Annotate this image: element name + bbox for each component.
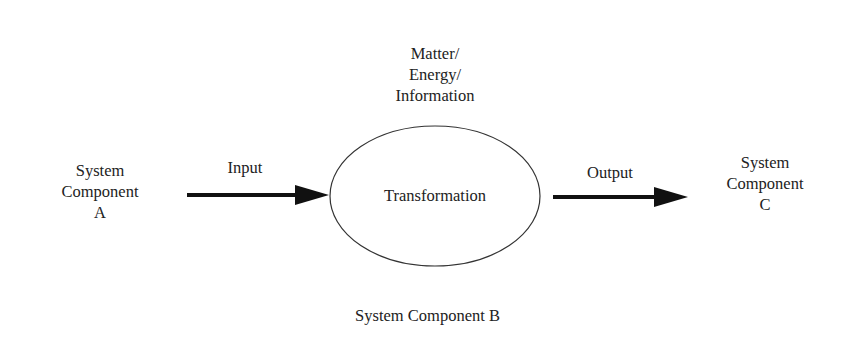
energy-line: Energy/	[370, 64, 500, 85]
component-a-line1: System	[40, 160, 160, 181]
information-line: Information	[370, 85, 500, 106]
component-c-label: System Component C	[705, 152, 825, 215]
matter-line: Matter/	[370, 43, 500, 64]
transformation-label: Transformation	[355, 185, 515, 206]
input-label: Input	[205, 157, 285, 178]
flow-types-label: Matter/ Energy/ Information	[370, 43, 500, 106]
output-label: Output	[570, 162, 650, 183]
component-a-label: System Component A	[40, 160, 160, 223]
component-b-label: System Component B	[320, 305, 535, 326]
component-c-line2: Component	[705, 173, 825, 194]
component-c-line1: System	[705, 152, 825, 173]
component-a-line2: Component	[40, 181, 160, 202]
component-a-line3: A	[40, 202, 160, 223]
input-arrow	[187, 185, 329, 205]
output-arrow	[553, 187, 688, 207]
component-c-line3: C	[705, 194, 825, 215]
